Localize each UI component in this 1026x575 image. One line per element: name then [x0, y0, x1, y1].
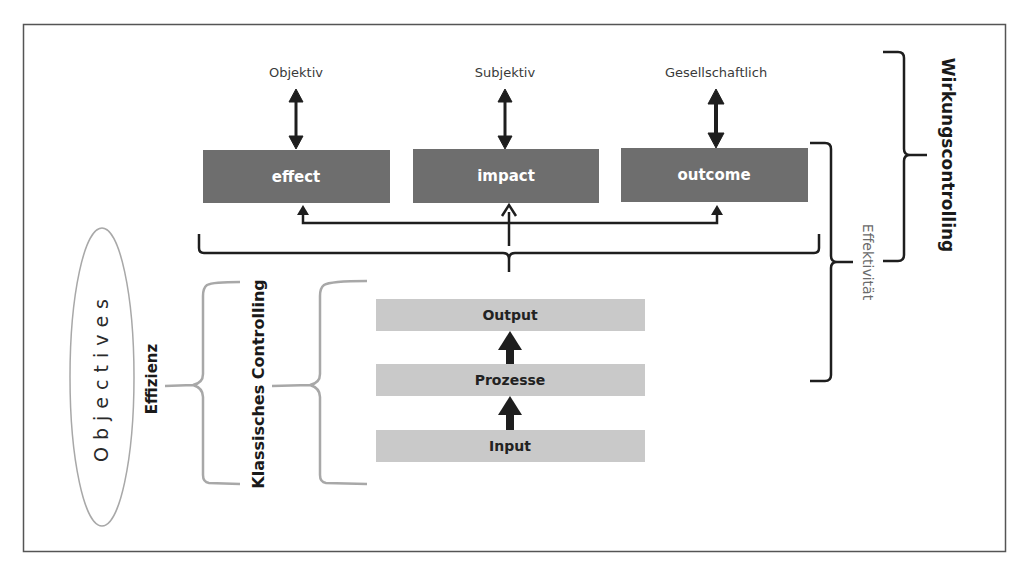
box-prozesse-label: Prozesse	[475, 372, 546, 388]
brace-effektivitaet	[810, 143, 853, 381]
brace-gray-outer	[165, 282, 240, 484]
double-arrow-icon	[289, 89, 303, 149]
box-impact-label: impact	[477, 167, 535, 185]
up-arrow-icon	[498, 331, 522, 364]
label-effektivitaet: Effektivität	[860, 224, 876, 301]
label-klassisches-controlling: Klassisches Controlling	[249, 279, 268, 489]
diagram-frame	[24, 25, 1006, 552]
box-output: Output	[376, 299, 645, 331]
up-arrow-icon	[498, 396, 522, 430]
label-objektiv: Objektiv	[269, 65, 323, 80]
label-gesellschaftlich: Gesellschaftlich	[665, 65, 767, 80]
double-arrow-icon	[498, 89, 512, 149]
box-outcome-label: outcome	[677, 166, 750, 184]
connector-arrows	[303, 212, 717, 246]
diagram-canvas: Objektiv Subjektiv Gesellschaftlich effe…	[0, 0, 1026, 575]
brace-wirkungscontrolling	[883, 52, 927, 261]
box-effect: effect	[203, 150, 390, 203]
box-input: Input	[376, 430, 645, 462]
brace-gray-inner	[272, 281, 367, 484]
box-output-label: Output	[482, 307, 538, 323]
box-impact: impact	[413, 149, 599, 203]
box-input-label: Input	[489, 438, 531, 454]
box-effect-label: effect	[272, 168, 321, 186]
box-outcome: outcome	[621, 148, 808, 202]
label-wirkungscontrolling: Wirkungscontrolling	[938, 58, 958, 253]
label-objectives: Objectives	[90, 292, 112, 462]
double-arrow-icon	[708, 89, 724, 148]
label-effizienz: Effizienz	[143, 344, 161, 415]
label-subjektiv: Subjektiv	[475, 65, 536, 80]
box-prozesse: Prozesse	[376, 364, 645, 396]
